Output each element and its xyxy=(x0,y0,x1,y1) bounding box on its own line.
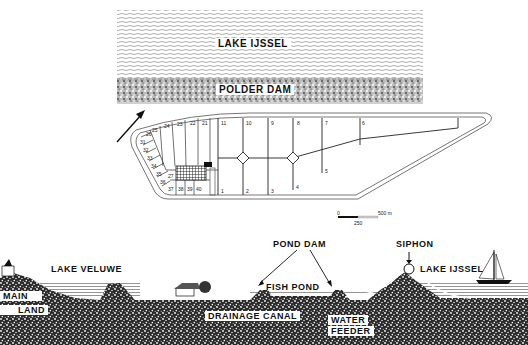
pond-37: 37 xyxy=(168,186,174,192)
pond-27: 27 xyxy=(168,173,174,179)
pond-33: 33 xyxy=(147,155,153,161)
pond-dam-label: POND DAM xyxy=(273,239,326,249)
lake-veluwe-label: LAKE VELUWE xyxy=(51,264,122,274)
pond-grid xyxy=(218,118,458,195)
pond-1: 1 xyxy=(221,188,224,194)
pond-3: 3 xyxy=(271,188,274,194)
pond-40: 40 xyxy=(196,186,202,192)
fish-pond-label: FISH POND xyxy=(266,282,320,292)
polder-dam-label: POLDER DAM xyxy=(216,84,294,95)
pond-26: 26 xyxy=(146,131,152,137)
pond-6: 6 xyxy=(362,120,365,126)
scale-start: 0 xyxy=(337,210,340,216)
pond-31: 31 xyxy=(140,139,146,145)
lake-ijssel-section-label: LAKE IJSSEL xyxy=(420,264,484,274)
pond-2: 2 xyxy=(246,188,249,194)
pond-21: 21 xyxy=(202,120,208,126)
land-label: LAND xyxy=(0,305,48,315)
pond-10: 10 xyxy=(246,120,252,126)
feeder-label: FEEDER xyxy=(328,326,374,336)
pond-8: 8 xyxy=(297,120,300,126)
scale-mid: 250 xyxy=(354,220,362,226)
pond-34: 34 xyxy=(151,163,157,169)
scale-end: 500 m xyxy=(378,210,392,216)
pond-24: 24 xyxy=(164,123,170,129)
pond-9: 9 xyxy=(271,120,274,126)
pond-23: 23 xyxy=(177,121,183,127)
diagram-svg xyxy=(0,0,528,345)
pond-5: 5 xyxy=(325,168,328,174)
pond-25: 25 xyxy=(152,127,158,133)
building-block xyxy=(204,162,212,167)
main-label: MAIN xyxy=(0,291,42,301)
scale-bar xyxy=(338,216,378,218)
siphon-label: SIPHON xyxy=(396,239,434,249)
pond-4: 4 xyxy=(296,184,299,190)
pond-7: 7 xyxy=(325,120,328,126)
pond-35: 35 xyxy=(156,171,162,177)
hatchery-block xyxy=(176,166,206,180)
service-road xyxy=(210,168,215,195)
pond-32: 32 xyxy=(143,147,149,153)
pond-36: 36 xyxy=(160,179,166,185)
pond-22: 22 xyxy=(190,120,196,126)
pond-38: 38 xyxy=(178,186,184,192)
lake-ijssel-plan-label: LAKE IJSSEL xyxy=(215,38,291,49)
water-label: WATER xyxy=(328,315,368,325)
drainage-canal-label: DRAINAGE CANAL xyxy=(205,311,300,321)
pond-39: 39 xyxy=(187,186,193,192)
pond-11: 11 xyxy=(221,120,226,126)
diagram-root: LAKE IJSSEL POLDER DAM 11 10 9 8 7 6 1 2… xyxy=(0,0,528,345)
